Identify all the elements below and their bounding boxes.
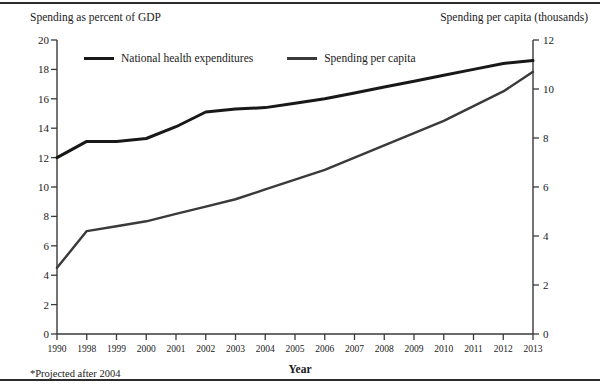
right-axis-tick-label: 8 [543,132,573,144]
legend-item-spending-per-capita: Spending per capita [287,52,415,65]
axes-group [57,40,533,334]
left-axis-tick-label: 10 [17,181,49,193]
series-line-national-health-expenditures [57,61,533,158]
x-axis-tick-label: 2011 [458,343,490,355]
x-axis-tick-label: 2004 [249,343,281,355]
x-axis-tick-label: 2007 [339,343,371,355]
legend-swatch-icon [84,57,114,60]
right-axis-tick-label: 6 [543,181,573,193]
x-axis-tick-label: 2003 [220,343,252,355]
left-axis-tick-label: 0 [17,328,49,340]
x-axis-tick-label: 1998 [71,343,103,355]
right-axis-ticks [533,40,539,334]
x-axis-tick-label: 2009 [398,343,430,355]
x-axis-tick-label: 2013 [517,343,549,355]
right-axis-tick-label: 2 [543,279,573,291]
right-axis-tick-label: 4 [543,230,573,242]
footnote-text: *Projected after 2004 [30,368,120,380]
chart-legend: National health expenditures Spending pe… [84,52,416,65]
left-axis-tick-label: 20 [17,34,49,46]
x-axis-tick-label: 2008 [368,343,400,355]
left-axis-tick-label: 18 [17,63,49,75]
x-axis-tick-label: 1990 [41,343,73,355]
left-axis-tick-label: 8 [17,210,49,222]
legend-item-national-health-expenditures: National health expenditures [84,52,253,65]
x-axis-tick-label: 2002 [190,343,222,355]
x-axis-ticks [57,334,533,340]
x-axis-tick-label: 2006 [309,343,341,355]
x-axis-tick-label: 1999 [101,343,133,355]
left-axis-tick-label: 16 [17,93,49,105]
x-axis-tick-label: 2000 [130,343,162,355]
legend-label: Spending per capita [324,52,415,65]
left-axis-tick-label: 2 [17,299,49,311]
left-axis-tick-label: 14 [17,122,49,134]
x-axis-tick-label: 2010 [428,343,460,355]
left-axis-tick-label: 6 [17,240,49,252]
left-axis-tick-label: 12 [17,152,49,164]
legend-swatch-icon [287,57,317,59]
right-axis-tick-label: 10 [543,83,573,95]
figure-container: Spending as percent of GDP Spending per … [0,0,600,388]
right-axis-tick-label: 12 [543,34,573,46]
x-axis-tick-label: 2001 [160,343,192,355]
legend-label: National health expenditures [121,52,253,65]
x-axis-tick-label: 2005 [279,343,311,355]
series-line-spending-per-capita [57,72,533,268]
x-axis-tick-label: 2012 [487,343,519,355]
left-axis-tick-label: 4 [17,269,49,281]
left-axis-ticks [51,40,57,334]
right-axis-tick-label: 0 [543,328,573,340]
